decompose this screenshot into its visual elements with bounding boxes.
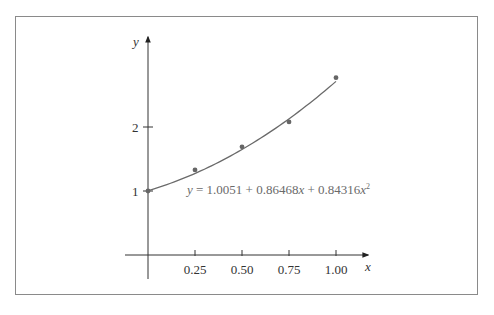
y-tick-label: 2 — [132, 120, 139, 135]
fit-equation: y = 1.0051 + 0.86468x + 0.84316x2 — [185, 182, 370, 197]
data-points — [146, 75, 339, 193]
x-tick-label: 0.25 — [184, 262, 207, 277]
data-point — [287, 119, 292, 124]
x-axis-label: x — [364, 259, 371, 274]
fit-curve — [148, 81, 336, 190]
y-ticks: 1 2 — [132, 120, 153, 199]
y-tick-label: 1 — [132, 184, 139, 199]
x-tick-label: 0.75 — [278, 262, 301, 277]
data-point — [146, 189, 151, 194]
x-ticks: 0.25 0.50 0.75 1.00 — [184, 250, 348, 277]
data-point — [193, 167, 198, 172]
x-tick-label: 1.00 — [325, 262, 348, 277]
x-tick-label: 0.50 — [231, 262, 254, 277]
data-point — [240, 144, 245, 149]
chart-plot: y x 1 2 0.25 0.50 0.75 1.00 y = 1.0051 +… — [0, 0, 494, 315]
y-axis-label: y — [131, 34, 139, 49]
data-point — [334, 75, 339, 80]
